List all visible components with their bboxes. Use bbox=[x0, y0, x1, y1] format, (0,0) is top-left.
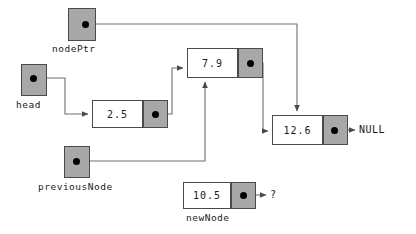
pointer-label-head: head bbox=[16, 99, 41, 110]
node-pointer-dot-node-2-5 bbox=[152, 111, 159, 118]
pointer-dot-nodePtr bbox=[82, 21, 89, 28]
node-pointer-dot-node-10-5 bbox=[240, 192, 247, 199]
pointer-dot-previousNode bbox=[73, 158, 80, 165]
node-label-node-10-5: newNode bbox=[186, 212, 230, 223]
node-pointer-dot-node-12-6 bbox=[331, 127, 338, 134]
node-value-node-10-5: 10.5 bbox=[193, 190, 221, 201]
null-terminal: NULL bbox=[359, 124, 385, 135]
node-value-cell-node-7-9: 7.9 bbox=[187, 48, 238, 78]
node-value-node-12-6: 12.6 bbox=[283, 125, 311, 136]
node-value-cell-node-12-6: 12.6 bbox=[272, 115, 323, 145]
pointer-dot-head bbox=[30, 75, 37, 82]
unknown-terminal: ? bbox=[270, 189, 277, 200]
pointer-label-previousNode: previousNode bbox=[38, 181, 113, 192]
node-value-cell-node-10-5: 10.5 bbox=[183, 182, 231, 209]
linked-list-diagram: nodePtrheadpreviousNode 2.57.912.610.5ne… bbox=[0, 0, 416, 234]
node-value-cell-node-2-5: 2.5 bbox=[92, 100, 143, 128]
node-value-node-7-9: 7.9 bbox=[202, 58, 223, 69]
node-pointer-dot-node-7-9 bbox=[247, 60, 254, 67]
node-value-node-2-5: 2.5 bbox=[107, 109, 128, 120]
pointer-label-nodePtr: nodePtr bbox=[52, 43, 96, 54]
